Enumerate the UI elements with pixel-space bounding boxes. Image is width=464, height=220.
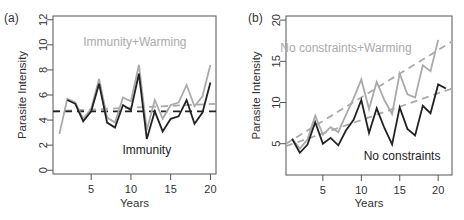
series-annotation: No constraints+Warming — [280, 41, 411, 55]
x-tick-label: 20 — [432, 184, 444, 196]
x-tick-label: 20 — [204, 183, 216, 195]
series-line — [67, 74, 210, 139]
x-tick-label: 5 — [320, 184, 326, 196]
x-tick-label: 15 — [165, 183, 177, 195]
series-annotation: Immunity — [122, 143, 171, 157]
y-axis-label: Parasite Intensity — [16, 51, 28, 139]
series-line — [59, 65, 210, 134]
panel-label: (a) — [4, 11, 19, 25]
y-tick-label: 0 — [37, 167, 49, 173]
y-tick-label: 2 — [37, 142, 49, 148]
x-tick-label: 10 — [355, 184, 367, 196]
y-tick-label: 6 — [37, 92, 49, 98]
y-tick-label: 20 — [270, 14, 282, 26]
x-tick-label: 15 — [394, 184, 406, 196]
y-axis-label: Parasite Intensity — [250, 51, 262, 139]
panel-label: (b) — [248, 11, 263, 25]
y-tick-label: 10 — [37, 39, 49, 51]
x-axis-label: Years — [355, 197, 384, 209]
y-tick-label: 8 — [37, 67, 49, 73]
series-annotation: Immunity+Warming — [83, 35, 186, 49]
trend-line — [286, 88, 452, 146]
y-tick-label: 4 — [37, 117, 49, 123]
y-tick-label: 10 — [270, 96, 282, 108]
x-tick-label: 5 — [88, 183, 94, 195]
x-axis-label: Years — [120, 197, 149, 209]
y-tick-label: 12 — [37, 14, 49, 26]
panel-a: 0246810125101520YearsParasite Intensity(… — [4, 11, 217, 209]
y-tick-label: 15 — [270, 55, 282, 67]
series-annotation: No constraints — [364, 149, 441, 163]
y-tick-label: 5 — [270, 141, 282, 147]
x-tick-label: 10 — [125, 183, 137, 195]
panel-b: 51015205101520YearsParasite Intensity(b)… — [248, 11, 452, 209]
figure: 0246810125101520YearsParasite Intensity(… — [0, 0, 464, 220]
